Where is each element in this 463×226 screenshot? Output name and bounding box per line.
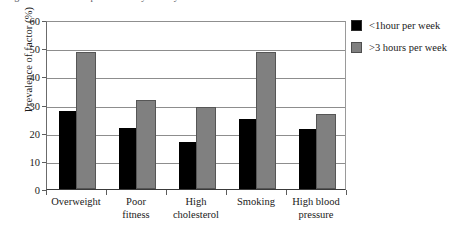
y-tick-label: 50: [16, 44, 40, 55]
legend-item: >3 hours per week: [351, 39, 447, 56]
y-tick-label: 60: [16, 16, 40, 27]
legend-label: >3 hours per week: [369, 42, 447, 53]
plot-area: [46, 21, 346, 190]
legend-swatch: [351, 20, 362, 31]
legend-item: <1hour per week: [351, 17, 447, 34]
x-tick-mark: [106, 190, 107, 195]
legend-label: <1hour per week: [369, 20, 440, 31]
legend-swatch: [351, 42, 362, 53]
y-tick-label: 30: [16, 100, 40, 111]
y-tick-label: 40: [16, 72, 40, 83]
x-tick-mark: [226, 190, 227, 195]
y-tick-label: 0: [16, 185, 40, 196]
bar: [76, 52, 96, 189]
bar: [256, 52, 276, 189]
x-axis-category-label: High blood pressure: [276, 196, 356, 221]
x-tick-mark: [286, 190, 287, 195]
y-tick-label: 20: [16, 128, 40, 139]
x-tick-mark: [46, 190, 47, 195]
bar: [136, 100, 156, 189]
y-tick-label: 10: [16, 156, 40, 167]
bar-chart-figure: Figure — risk factor prevalence by activ…: [0, 0, 463, 226]
x-tick-mark: [166, 190, 167, 195]
chart-legend: <1hour per week>3 hours per week: [351, 17, 447, 61]
bar: [196, 107, 216, 189]
bar: [316, 114, 336, 189]
x-tick-mark: [346, 190, 347, 195]
